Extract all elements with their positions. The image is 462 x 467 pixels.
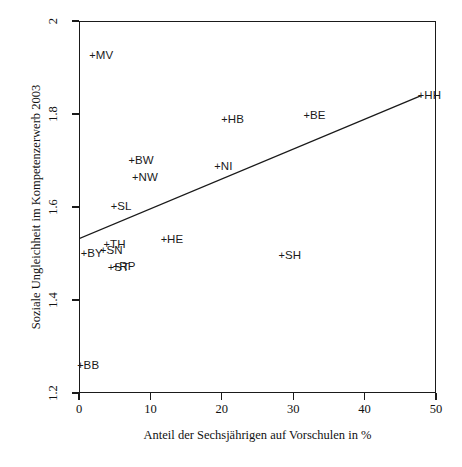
data-point-label: NW	[139, 171, 159, 183]
x-tick-label: 0	[64, 402, 94, 417]
plot-area	[79, 21, 436, 393]
x-tick-mark	[293, 393, 294, 400]
x-tick-mark	[221, 393, 222, 400]
data-point-nw: +NW	[132, 172, 158, 184]
data-point-label: HE	[167, 233, 183, 245]
x-tick-mark	[150, 393, 151, 400]
data-point-label: SH	[285, 249, 301, 261]
data-point-label: MV	[96, 49, 114, 61]
data-point-label: HB	[228, 113, 244, 125]
scatter-plot-figure: Soziale Ungleichheit im Kompetenzerwerb …	[0, 0, 462, 467]
y-tick-mark	[72, 20, 79, 21]
data-point-hb: +HB	[221, 114, 244, 126]
data-point-label: HH	[424, 89, 441, 101]
y-axis-title: Soziale Ungleichheit im Kompetenzerwerb …	[26, 21, 46, 393]
data-point-mv: +MV	[89, 50, 113, 62]
data-point-sn: +SN	[100, 245, 123, 257]
y-tick-mark	[72, 299, 79, 300]
y-tick-mark	[72, 206, 79, 207]
data-point-bb: +BB	[77, 360, 99, 372]
x-tick-label: 30	[278, 402, 308, 417]
data-point-be: +BE	[303, 110, 325, 122]
y-tick-label: 1.6	[46, 190, 60, 224]
data-point-label: BY	[87, 247, 103, 259]
data-point-label: SL	[117, 200, 131, 212]
data-point-label: BW	[135, 154, 154, 166]
data-point-bw: +BW	[129, 155, 154, 167]
x-tick-label: 10	[135, 402, 165, 417]
data-point-label: SN	[106, 244, 122, 256]
data-point-hh: +HH	[418, 90, 441, 102]
data-point-sl: +SL	[111, 201, 132, 213]
x-tick-label: 40	[350, 402, 380, 417]
y-tick-label: 1.2	[46, 376, 60, 410]
data-point-label: NI	[221, 160, 233, 172]
x-tick-mark	[78, 393, 79, 400]
data-point-by: +BY	[81, 248, 103, 260]
y-tick-label: 1.4	[46, 283, 60, 317]
y-tick-label: 1.8	[46, 97, 60, 131]
x-tick-mark	[435, 393, 436, 400]
data-point-label: ST	[114, 261, 129, 273]
data-point-ni: +NI	[214, 161, 232, 173]
x-axis-title: Anteil der Sechsjährigen auf Vorschulen …	[79, 428, 436, 443]
y-tick-mark	[72, 113, 79, 114]
data-point-sh: +SH	[278, 250, 301, 262]
data-point-label: BE	[310, 109, 326, 121]
y-tick-label: 2	[46, 4, 60, 38]
x-tick-label: 50	[421, 402, 451, 417]
x-tick-mark	[364, 393, 365, 400]
x-tick-label: 20	[207, 402, 237, 417]
data-point-st: +ST	[108, 262, 130, 274]
data-point-he: +HE	[161, 234, 184, 246]
data-point-label: BB	[84, 359, 100, 371]
